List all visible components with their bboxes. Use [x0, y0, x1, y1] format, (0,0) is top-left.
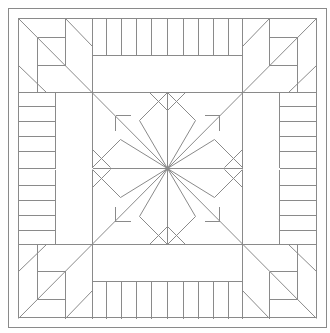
corner-diagonal-bar: [243, 19, 270, 47]
star-point-edge: [121, 140, 168, 169]
corner-diagonal-bar: [289, 66, 317, 93]
star-point-edge: [121, 169, 168, 198]
corner-diagonal-bar: [289, 245, 317, 272]
corner-diagonal-bar: [19, 66, 47, 93]
corner-diagonal-bar: [19, 245, 47, 272]
corner-diagonal-bar: [66, 19, 93, 47]
quilt-diagram: [0, 0, 330, 333]
star-point-edge: [168, 140, 215, 169]
corner-diagonal-bar: [66, 291, 93, 319]
corner-diagonal-bar: [243, 291, 270, 319]
quilt-pattern-svg: [0, 0, 330, 333]
star-point-edge: [168, 169, 215, 198]
